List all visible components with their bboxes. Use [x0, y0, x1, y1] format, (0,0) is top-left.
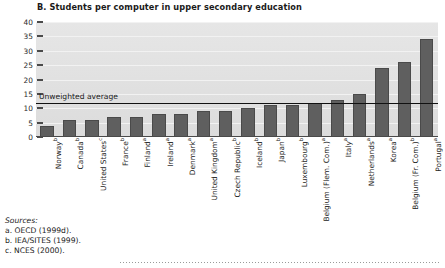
- x-axis-tick-label: Portugala: [432, 138, 442, 172]
- x-label-slot: Czech Republicb: [215, 138, 237, 208]
- bar-slot: [125, 22, 147, 137]
- y-axis-tick-label: 40: [24, 18, 36, 27]
- y-axis-tick-label: 10: [24, 104, 36, 113]
- y-axis-tick-label: 15: [24, 89, 36, 98]
- x-label-slot: Belgium (Flem. Com.)a: [304, 138, 326, 208]
- x-label-slot: United Statesc: [81, 138, 103, 208]
- unweighted-average-line: [36, 103, 438, 104]
- bar-slot: [148, 22, 170, 137]
- x-label-slot: Irelanda: [148, 138, 170, 208]
- bar[interactable]: [85, 120, 98, 137]
- page-title: B. Students per computer in upper second…: [37, 2, 302, 12]
- x-label-slot: Belgium (Fr. Com.)b: [393, 138, 415, 208]
- bar[interactable]: [107, 117, 120, 137]
- sources-block: Sources: a. OECD (1999d). b. IEA/SITES (…: [5, 216, 81, 256]
- bar-slot: [416, 22, 438, 137]
- bar-slot: [103, 22, 125, 137]
- bar-slot: [58, 22, 80, 137]
- y-axis-tick-label: 5: [28, 118, 36, 127]
- x-label-slot: United Kingdoma: [192, 138, 214, 208]
- x-label-slot: Koreaa: [371, 138, 393, 208]
- bar[interactable]: [241, 108, 254, 137]
- x-axis-labels: NorwaybCanadabUnited StatescFrancebFinla…: [36, 138, 438, 208]
- x-label-slot: Franceb: [103, 138, 125, 208]
- x-label-slot: Norwayb: [36, 138, 58, 208]
- x-label-slot: Luxembourgb: [282, 138, 304, 208]
- x-label-slot: Netherlandsa: [349, 138, 371, 208]
- bar-slot: [215, 22, 237, 137]
- x-label-slot: Icelandb: [237, 138, 259, 208]
- x-axis-label-footnote: a: [432, 138, 438, 141]
- source-item: c. NCES (2000).: [5, 246, 81, 256]
- x-label-slot: Portugala: [416, 138, 438, 208]
- bar-slot: [237, 22, 259, 137]
- figure-container: B. Students per computer in upper second…: [0, 0, 445, 268]
- sources-heading: Sources:: [5, 216, 81, 226]
- source-item: a. OECD (1999d).: [5, 226, 81, 236]
- bar[interactable]: [174, 114, 187, 137]
- footer-divider: [120, 262, 440, 263]
- y-axis-tick-label: 0: [28, 133, 36, 142]
- bar[interactable]: [420, 39, 433, 137]
- bar-slot: [393, 22, 415, 137]
- y-axis-tick-label: 25: [24, 61, 36, 70]
- source-item: b. IEA/SITES (1999).: [5, 236, 81, 246]
- bar-slot: [304, 22, 326, 137]
- bar[interactable]: [197, 111, 210, 137]
- x-label-slot: Canadab: [58, 138, 80, 208]
- bar-slot: [36, 22, 58, 137]
- bar-slot: [326, 22, 348, 137]
- bar-slot: [259, 22, 281, 137]
- x-label-slot: Japanb: [259, 138, 281, 208]
- bar[interactable]: [63, 120, 76, 137]
- x-label-slot: Finlanda: [125, 138, 147, 208]
- bar[interactable]: [286, 105, 299, 137]
- bar[interactable]: [353, 94, 366, 137]
- x-label-slot: Denmarka: [170, 138, 192, 208]
- plot-area: 0510152025303540 Unweighted average: [36, 22, 438, 137]
- unweighted-average-label: Unweighted average: [39, 92, 118, 101]
- bar[interactable]: [264, 105, 277, 137]
- bar[interactable]: [130, 117, 143, 137]
- bar[interactable]: [398, 62, 411, 137]
- bar-slot: [192, 22, 214, 137]
- y-axis-tick-label: 30: [24, 46, 36, 55]
- bar-slot: [371, 22, 393, 137]
- bar[interactable]: [152, 114, 165, 137]
- x-label-slot: Italya: [326, 138, 348, 208]
- y-axis-tick-label: 20: [24, 75, 36, 84]
- bar[interactable]: [219, 111, 232, 137]
- bar-slot: [349, 22, 371, 137]
- bar-slot: [81, 22, 103, 137]
- y-axis-tick-label: 35: [24, 32, 36, 41]
- bar-series: [36, 22, 438, 137]
- bar-slot: [282, 22, 304, 137]
- bar[interactable]: [308, 103, 321, 138]
- bar[interactable]: [331, 100, 344, 137]
- bar-slot: [170, 22, 192, 137]
